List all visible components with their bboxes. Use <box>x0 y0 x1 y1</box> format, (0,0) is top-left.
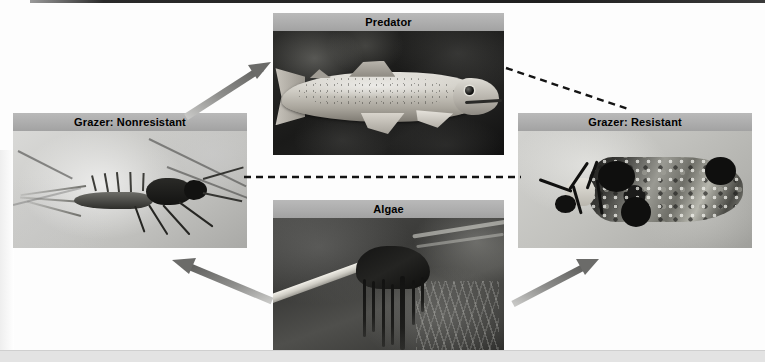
scan-edge-artifact-left <box>0 150 14 350</box>
caddis-case-dark-patch <box>598 161 635 191</box>
algae-strand <box>421 277 424 311</box>
caddis-case-dark-patch <box>621 197 651 227</box>
scan-edge-artifact-top <box>30 0 765 3</box>
fish-adipose-fin <box>310 68 331 78</box>
algae-strand <box>412 280 415 325</box>
panel-label-predator: Predator <box>273 13 504 31</box>
fish-speckle-pattern <box>296 76 458 108</box>
panel-label-grazer-nonresistant: Grazer: Nonresistant <box>13 113 247 131</box>
arrow-algae-to-nonresistant <box>172 258 272 301</box>
nymph-head <box>184 180 207 200</box>
photo-predator <box>273 31 504 155</box>
aquatic-plants <box>416 281 499 350</box>
nymph-cercus <box>26 201 81 217</box>
arrow-algae-to-resistant <box>513 259 599 304</box>
algae-clump <box>356 246 430 290</box>
scan-edge-artifact-bottom <box>0 350 765 362</box>
background-streak <box>17 150 72 179</box>
caddis-case-dark-patch <box>705 157 735 185</box>
fish-dorsal-fin <box>349 61 395 77</box>
nymph-gill <box>103 173 108 192</box>
arrow-nonresistant-to-predator <box>186 62 271 117</box>
caddis-larva-head-dark <box>555 195 576 213</box>
nymph-gill <box>116 172 120 192</box>
nymph-leg <box>179 201 214 227</box>
panel-grazer-nonresistant[interactable]: Grazer: Nonresistant <box>13 113 247 248</box>
nymph-leg <box>134 205 145 232</box>
food-web-figure: Predator Grazer: Nonresistant <box>0 0 765 362</box>
panel-algae[interactable]: Algae <box>273 200 504 350</box>
algae-strand <box>382 279 385 348</box>
nymph-gill <box>129 172 132 192</box>
fish-pelvic-fin <box>361 113 405 134</box>
photo-grazer-nonresistant <box>13 131 247 248</box>
photo-grazer-resistant <box>518 131 752 248</box>
fish-eye <box>465 86 474 95</box>
photo-algae <box>273 218 504 350</box>
nymph-abdomen <box>74 192 154 210</box>
dashed-predator-to-resistant <box>506 68 631 110</box>
algae-strand <box>372 281 375 331</box>
panel-label-algae: Algae <box>273 200 504 218</box>
algae-strand <box>363 279 366 337</box>
nymph-gill <box>142 173 145 191</box>
panel-predator[interactable]: Predator <box>273 13 504 155</box>
fish-head <box>453 78 499 115</box>
panel-label-grazer-resistant: Grazer: Resistant <box>518 113 752 131</box>
algae-strand <box>391 284 394 345</box>
nymph-gill <box>91 176 97 192</box>
panel-grazer-resistant[interactable]: Grazer: Resistant <box>518 113 752 248</box>
algae-strand <box>400 276 405 350</box>
